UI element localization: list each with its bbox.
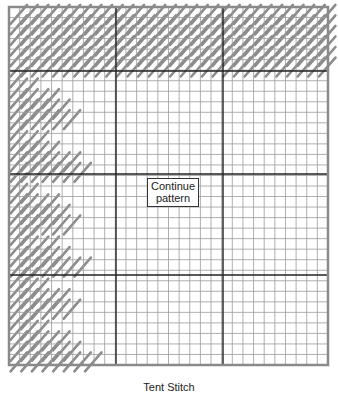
figure-caption: Tent Stitch: [0, 381, 338, 393]
continue-pattern-callout: Continue pattern: [147, 178, 199, 207]
callout-line-1: Continue: [148, 180, 198, 192]
callout-line-2: pattern: [148, 192, 198, 204]
